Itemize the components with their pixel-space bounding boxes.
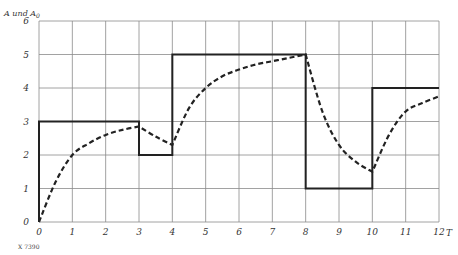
x-axis-title: T xyxy=(446,228,453,238)
x-tick-label: 2 xyxy=(102,227,109,237)
y-tick-label: 2 xyxy=(22,150,29,160)
x-tick-label: 0 xyxy=(36,227,42,237)
x-tick-label: 12 xyxy=(433,227,445,237)
x-tick-label: 3 xyxy=(136,227,142,237)
x-tick-label: 5 xyxy=(203,227,209,237)
x-tick-label: 11 xyxy=(400,227,411,237)
x-tick-label: 8 xyxy=(303,227,309,237)
x-tick-label: 10 xyxy=(367,227,379,237)
y-tick-label: 4 xyxy=(22,83,29,93)
chart: 01234567891011120123456 A und A0 T X 739… xyxy=(0,0,458,255)
y-tick-label: 3 xyxy=(23,117,29,127)
y-tick-label: 5 xyxy=(23,50,29,60)
x-tick-label: 9 xyxy=(336,227,342,237)
footnote: X 7390 xyxy=(18,243,40,250)
x-tick-label: 7 xyxy=(269,227,275,237)
x-tick-label: 4 xyxy=(168,227,175,237)
axis-ticks: 01234567891011120123456 xyxy=(22,16,445,237)
y-tick-label: 1 xyxy=(23,184,29,194)
x-tick-label: 6 xyxy=(236,227,242,237)
y-axis-title: A und A0 xyxy=(3,9,40,19)
y-tick-label: 0 xyxy=(23,217,29,227)
x-tick-label: 1 xyxy=(69,227,75,237)
